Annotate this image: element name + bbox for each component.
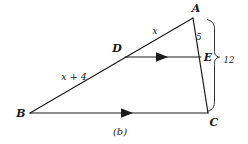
geometry-figure: A B C D E x x + 4 5 12 (b): [0, 0, 248, 144]
length-label-ae: 5: [196, 33, 201, 42]
vertex-label-a: A: [192, 3, 201, 14]
brace-ac-icon: [208, 20, 220, 112]
segment-ab: [30, 18, 193, 113]
vertex-label-e: E: [204, 52, 212, 63]
vertex-label-b: B: [16, 108, 25, 119]
vertex-label-c: C: [210, 117, 219, 128]
figure-caption: (b): [113, 127, 127, 137]
length-label-ac: 12: [224, 56, 235, 65]
vertex-label-d: D: [112, 43, 122, 54]
arrowhead-bc-icon: [121, 108, 133, 118]
length-label-db: x + 4: [61, 72, 86, 82]
arrowhead-de-icon: [156, 52, 168, 62]
length-label-ad: x: [152, 26, 157, 36]
